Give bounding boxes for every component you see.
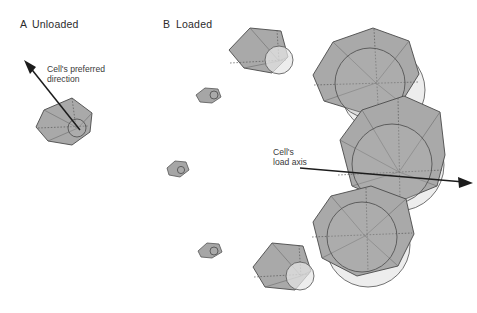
panel-b-letter: B xyxy=(163,18,170,30)
figure-canvas: A Unloaded Cell's preferred direction xyxy=(0,0,477,313)
figure-root: A Unloaded Cell's preferred direction xyxy=(0,0,477,313)
panel-b-group: B Loaded xyxy=(163,18,473,290)
cell-b-bottom-left xyxy=(253,243,314,290)
cell-halo-circle-b-top-left xyxy=(265,46,293,74)
cell-halo-circle-b-bottom-left xyxy=(286,262,314,290)
panel-a-title: Unloaded xyxy=(32,18,79,30)
cell-fragment-nucleus-2 xyxy=(177,166,184,173)
cell-fragment-nucleus-3 xyxy=(210,247,218,255)
panel-a-annotation-line1: Cell's preferred xyxy=(47,64,105,74)
load-axis-arrow-head xyxy=(458,177,473,188)
cell-fragment-3 xyxy=(198,243,222,258)
cell-nucleus-circle-a1 xyxy=(68,119,86,137)
cell-b-top-left xyxy=(229,28,293,74)
panel-a-group: A Unloaded Cell's preferred direction xyxy=(20,18,105,145)
panel-a-letter: A xyxy=(20,18,27,30)
cell-inner-circle-b3 xyxy=(327,202,397,272)
panel-b-annotation-line2: load axis xyxy=(273,157,307,167)
cell-fragment-nucleus-1 xyxy=(210,91,218,99)
panel-b-title: Loaded xyxy=(176,18,212,30)
panel-b-annotation-line1: Cell's xyxy=(273,147,294,157)
cell-fragment-group xyxy=(167,88,222,258)
cell-fragment-2 xyxy=(167,161,189,177)
cell-b-chain-3 xyxy=(312,186,414,287)
panel-a-cell xyxy=(36,98,92,145)
panel-a-annotation-line2: direction xyxy=(47,74,80,84)
cell-fragment-1 xyxy=(196,88,221,103)
